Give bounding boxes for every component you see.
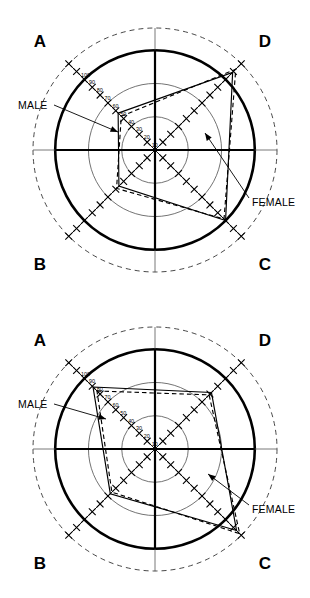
scale-tick-label-40: 40 <box>128 418 134 424</box>
scale-tick-label-60: 60 <box>112 103 118 109</box>
scale-tick-label-60: 60 <box>112 402 118 408</box>
male-leader-arrowhead <box>98 414 106 420</box>
scale-tick-label-20: 20 <box>144 134 150 140</box>
quadrant-label-b: B <box>34 554 46 573</box>
quadrant-label-a: A <box>34 32 46 51</box>
polar-plot-bottom: 100908070605040302010ADBCMALEFEMALE <box>0 299 310 598</box>
scale-tick-label-20: 20 <box>144 433 150 439</box>
plot-center <box>153 148 157 152</box>
scale-tick-label-50: 50 <box>120 410 126 416</box>
scale-tick-label-30: 30 <box>136 126 142 132</box>
male-annotation-label: MALE <box>18 398 47 410</box>
data-polygon-female <box>117 69 236 219</box>
scale-tick-label-70: 70 <box>105 394 111 400</box>
scale-tick-label-80: 80 <box>97 87 103 93</box>
scale-tick-label-10: 10 <box>152 142 158 148</box>
scale-tick-label-90: 90 <box>89 79 95 85</box>
quadrant-label-b: B <box>34 255 46 274</box>
female-annotation-label: FEMALE <box>252 503 295 515</box>
female-annotation-label: FEMALE <box>252 196 295 208</box>
male-leader-arrowhead <box>110 126 118 132</box>
scale-tick-label-70: 70 <box>105 95 111 101</box>
female-leader-line <box>208 474 249 505</box>
plot-center <box>153 447 157 451</box>
scale-tick-label-40: 40 <box>128 119 134 125</box>
scale-tick-label-90: 90 <box>89 378 95 384</box>
male-annotation-label: MALE <box>18 99 47 111</box>
quadrant-label-a: A <box>34 331 46 350</box>
polar-figure: 100908070605040302010ADBCMALEFEMALE 1009… <box>0 0 310 598</box>
scale-tick-label-30: 30 <box>136 425 142 431</box>
polar-panel-top: 100908070605040302010ADBCMALEFEMALE <box>0 0 310 299</box>
scale-tick-label-100: 100 <box>81 371 90 377</box>
quadrant-label-c: C <box>259 255 271 274</box>
quadrant-label-d: D <box>259 32 271 51</box>
polar-plot-top: 100908070605040302010ADBCMALEFEMALE <box>0 0 310 299</box>
female-leader-arrowhead <box>208 474 216 481</box>
quadrant-label-d: D <box>259 331 271 350</box>
scale-tick-label-10: 10 <box>152 441 158 447</box>
female-leader-arrowhead <box>205 133 212 141</box>
male-leader-line <box>54 105 118 132</box>
scale-tick-label-100: 100 <box>81 72 90 78</box>
data-polygon-male <box>118 72 233 220</box>
polar-panel-bottom: 100908070605040302010ADBCMALEFEMALE <box>0 299 310 598</box>
quadrant-label-c: C <box>259 554 271 573</box>
